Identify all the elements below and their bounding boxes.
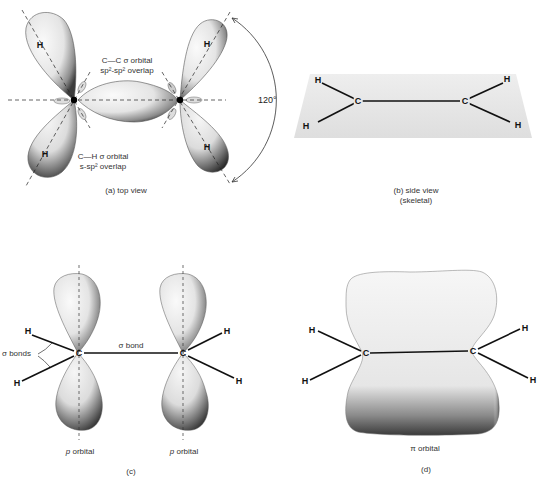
panel-b-caption: (b) side view (skeletal) [394,186,439,206]
panel-d-pi-orbital [310,270,528,435]
atom-h-d-lower-left: H [302,377,309,386]
ch-orbital-label-line1: C—H σ orbital [78,152,129,162]
atom-c-b-left: C [354,97,363,106]
atom-h-b-upper-left: H [315,76,322,85]
panel-d-caption: (d) [421,465,431,475]
atom-h-a-lower-right: H [204,143,211,152]
atom-h-d-lower-right: H [530,376,537,385]
panel-b-caption-line2: (skeletal) [394,196,439,206]
panel-a-caption: (a) top view [105,186,146,196]
ch-lobe-lower-right [180,100,228,172]
cc-sigma-lobe [78,81,178,122]
atom-h-d-upper-right: H [522,324,529,333]
ch-lobe-upper-right [180,20,227,100]
atom-c-c-right: C [180,349,187,358]
ch-orbital-label-line2: s-sp² overlap [78,162,129,172]
angle-label: 120° [258,95,277,105]
atom-c-b-right: C [461,97,470,106]
atom-h-b-lower-left: H [303,122,310,131]
atom-h-c-lower-left: H [14,379,21,388]
panel-b-caption-line1: (b) side view [394,186,439,196]
atom-h-b-lower-right: H [515,121,522,130]
ch-lobe-upper-left [26,12,76,100]
atom-h-c-lower-right: H [236,377,243,386]
atom-h-c-upper-right: H [224,327,231,336]
panel-c-p-orbitals [22,265,234,440]
panel-b-side-view [294,74,532,138]
molecular-plane [294,74,532,138]
p-orbital-right-label: pp orbital orbital [170,447,198,457]
atom-h-a-upper-right: H [204,40,211,49]
pi-orbital-label: π orbital [410,444,440,454]
cc-orbital-label-line1: C—C σ orbital [100,56,153,66]
atom-c-d-right: C [470,347,477,356]
sigma-bond-label: σ bond [119,341,144,351]
atom-h-d-upper-left: H [309,326,316,335]
carbon-nucleus-left [71,97,77,103]
sigma-bonds-bracket [38,343,52,367]
cc-orbital-label: C—C σ orbital sp²-sp² overlap [100,56,153,76]
atom-h-a-upper-left: H [37,41,44,50]
carbon-nucleus-right [177,97,183,103]
ethylene-orbital-diagram [0,0,540,482]
sigma-bonds-label: σ bonds [2,349,31,359]
atom-h-c-upper-left: H [25,327,32,336]
atom-c-d-left: C [363,349,370,358]
atom-h-b-upper-right: H [504,75,511,84]
p-orbital-left-label: pp orbital orbital [66,447,94,457]
atom-c-c-left: C [76,349,83,358]
panel-c-caption: (c) [126,467,135,477]
panel-a-top-view [8,10,276,186]
atom-h-a-lower-left: H [42,150,49,159]
cc-orbital-label-line2: sp²-sp² overlap [100,66,153,76]
ch-lobe-lower-left [28,100,77,177]
ch-orbital-label: C—H σ orbital s-sp² overlap [78,152,129,172]
